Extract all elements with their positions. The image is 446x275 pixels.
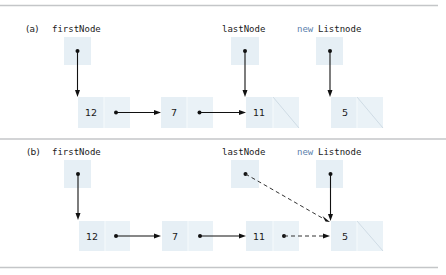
first-node-label: firstNode xyxy=(52,24,101,34)
new-listnode-label: Listnode xyxy=(318,147,361,157)
new-listnode-label: Listnode xyxy=(318,24,361,34)
panel-b: (b) firstNode lastNode new Listnode 12 7 xyxy=(27,147,383,251)
list-node: 5 xyxy=(331,221,383,251)
node-value: 5 xyxy=(342,231,348,242)
panel-a: (a) firstNode lastNode new Listnode 12 7 xyxy=(26,24,383,128)
new-keyword: new xyxy=(297,24,314,34)
node-value: 11 xyxy=(253,231,265,242)
node-value: 12 xyxy=(86,231,98,242)
new-keyword: new xyxy=(297,147,314,157)
node-value: 7 xyxy=(172,231,178,242)
linked-list-diagram: (a) firstNode lastNode new Listnode 12 7 xyxy=(0,0,446,275)
node-value: 7 xyxy=(171,107,177,118)
node-value: 5 xyxy=(342,107,348,118)
last-node-label: lastNode xyxy=(222,147,265,157)
node-value: 12 xyxy=(85,107,97,118)
node-value: 11 xyxy=(253,107,265,118)
list-node: 11 xyxy=(246,97,299,128)
list-node: 5 xyxy=(331,97,383,128)
panel-a-label: (a) xyxy=(26,24,39,34)
panel-b-label: (b) xyxy=(27,147,40,157)
last-node-label: lastNode xyxy=(222,24,265,34)
first-node-label: firstNode xyxy=(52,147,101,157)
